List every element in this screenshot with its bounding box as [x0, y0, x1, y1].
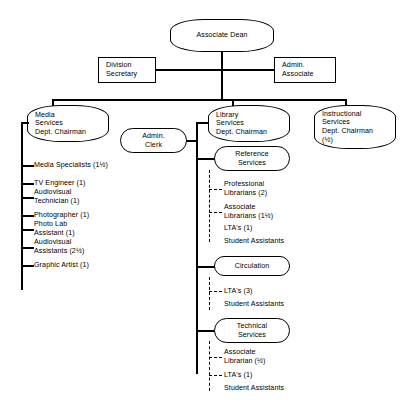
reference-staff-item: Associate Librarians (1½) — [224, 203, 273, 220]
org-chart: Associate Dean Division Secretary Admin.… — [0, 0, 410, 418]
technical-staff-item: Associate Librarian (½) — [224, 348, 266, 365]
connector-reference-staff-0 — [209, 189, 222, 190]
media-staff-item: Audiovisual Assistants (2½) — [34, 238, 84, 255]
connector-circulation-staff-0 — [209, 291, 222, 292]
instructional-services-line4: (½) — [322, 136, 388, 145]
reference-staff-1-line1: Associate — [224, 203, 273, 212]
node-media-services[interactable]: Media Services Dept. Chairman — [27, 105, 109, 142]
technical-services-line1: Technical — [222, 322, 282, 331]
reference-staff-1-line2: Librarians (1½) — [224, 212, 273, 221]
media-staff-item: TV Engineer (1) — [34, 179, 86, 188]
media-staff-3-line1: Photographer (1) — [34, 211, 89, 220]
connector-reference-staff-1 — [209, 212, 222, 213]
connector-technical-staff-0 — [209, 357, 222, 358]
node-admin-associate[interactable]: Admin. Associate — [274, 57, 336, 83]
reference-staff-2-line1: LTA's (1) — [224, 224, 252, 233]
technical-staff-item: Student Assistants — [224, 384, 284, 393]
media-staff-4-line2: Assistant (1) — [34, 229, 75, 238]
node-instructional-services[interactable]: Instructional Services Dept. Chairman (½… — [314, 105, 396, 149]
node-admin-clerk[interactable]: Admin. Clerk — [120, 128, 187, 153]
connector-circulation-staff-spine — [209, 277, 210, 310]
connector-library-spine-top — [196, 122, 209, 124]
reference-staff-item: Student Assistants — [224, 237, 284, 246]
reference-staff-0-line2: Librarians (2) — [224, 189, 267, 198]
media-staff-2-line2: Technician (1) — [34, 197, 80, 206]
technical-services-line2: Services — [222, 331, 282, 340]
library-services-line2: Services — [216, 119, 282, 128]
connector-media-staff-5 — [21, 247, 34, 249]
connector-media-spine-top — [21, 122, 29, 124]
media-services-line2: Services — [35, 119, 101, 128]
node-library-services[interactable]: Library Services Dept. Chairman — [208, 105, 290, 142]
connector-technical-staff-1 — [209, 375, 222, 376]
media-staff-4-line1: Photo Lab — [34, 220, 75, 229]
circulation-staff-item: Student Assistants — [224, 300, 284, 309]
media-staff-6-line1: Graphic Artist (1) — [34, 261, 89, 270]
connector-unit-technical — [196, 330, 216, 332]
media-staff-2-line1: Audiovisual — [34, 188, 80, 197]
node-division-secretary[interactable]: Division Secretary — [98, 57, 156, 83]
connector-media-staff-6 — [21, 265, 34, 267]
technical-staff-item: LTA's (1) — [224, 371, 252, 380]
library-services-line3: Dept. Chairman — [216, 128, 282, 137]
media-services-line1: Media — [35, 111, 101, 120]
admin-associate-line2: Associate — [282, 70, 328, 79]
connector-media-staff-0 — [21, 165, 34, 167]
reference-staff-item: Professional Librarians (2) — [224, 180, 267, 197]
admin-clerk-line2: Clerk — [128, 141, 179, 150]
connector-media-staff-1 — [21, 183, 34, 185]
connector-dean-vertical — [221, 52, 223, 100]
media-staff-0-line1: Media Specialists (1½) — [34, 161, 108, 170]
library-services-line1: Library — [216, 111, 282, 120]
reference-services-line2: Services — [222, 159, 282, 168]
node-technical-services[interactable]: Technical Services — [214, 318, 290, 343]
circulation-staff-0-line1: LTA's (3) — [224, 287, 252, 296]
node-reference-services[interactable]: Reference Services — [214, 146, 290, 171]
technical-staff-1-line1: LTA's (1) — [224, 371, 252, 380]
connector-unit-reference — [196, 158, 216, 160]
media-staff-5-line2: Assistants (2½) — [34, 247, 84, 256]
technical-staff-0-line1: Associate — [224, 348, 266, 357]
circulation-line1: Circulation — [222, 262, 282, 271]
node-circulation[interactable]: Circulation — [214, 256, 290, 276]
node-associate-dean[interactable]: Associate Dean — [170, 19, 274, 52]
instructional-services-line3: Dept. Chairman — [322, 127, 388, 136]
division-secretary-line2: Secretary — [106, 70, 148, 79]
media-staff-item: Graphic Artist (1) — [34, 261, 89, 270]
connector-media-staff-2 — [21, 197, 34, 199]
connector-reference-staff-spine — [209, 170, 210, 242]
reference-staff-0-line1: Professional — [224, 180, 267, 189]
reference-staff-3-line1: Student Assistants — [224, 237, 284, 246]
media-staff-5-line1: Audiovisual — [34, 238, 84, 247]
media-staff-item: Photo Lab Assistant (1) — [34, 220, 75, 237]
connector-technical-staff-spine — [209, 341, 210, 391]
circulation-staff-item: LTA's (3) — [224, 287, 252, 296]
division-secretary-line1: Division — [106, 61, 148, 70]
media-services-line3: Dept. Chairman — [35, 128, 101, 137]
connector-unit-circulation — [196, 266, 216, 268]
media-staff-item: Photographer (1) — [34, 211, 89, 220]
reference-services-line1: Reference — [222, 150, 282, 159]
circulation-staff-1-line1: Student Assistants — [224, 300, 284, 309]
technical-staff-2-line1: Student Assistants — [224, 384, 284, 393]
admin-clerk-line1: Admin. — [128, 132, 179, 141]
instructional-services-line2: Services — [322, 118, 388, 127]
media-staff-item: Audiovisual Technician (1) — [34, 188, 80, 205]
connector-staff-right — [221, 69, 275, 71]
associate-dean-label: Associate Dean — [178, 31, 266, 40]
reference-staff-item: LTA's (1) — [224, 224, 252, 233]
technical-staff-0-line2: Librarian (½) — [224, 357, 266, 366]
admin-associate-line1: Admin. — [282, 61, 328, 70]
media-staff-1-line1: TV Engineer (1) — [34, 179, 86, 188]
connector-department-bus — [52, 99, 347, 101]
connector-media-staff-3 — [21, 215, 34, 217]
media-staff-item: Media Specialists (1½) — [34, 161, 108, 170]
connector-staff-left — [156, 69, 222, 71]
instructional-services-line1: Instructional — [322, 110, 388, 119]
connector-media-staff-4 — [21, 229, 34, 231]
